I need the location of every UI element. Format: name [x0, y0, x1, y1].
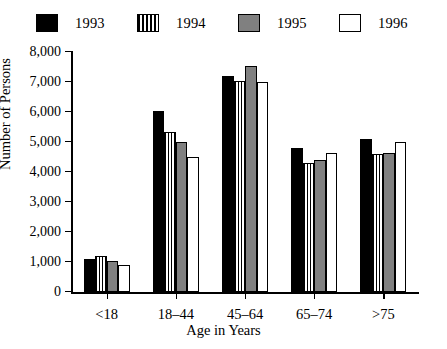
x-tick-label: 65–74 — [296, 306, 332, 323]
x-axis-title: Age in Years — [0, 322, 447, 339]
legend-label-1995: 1995 — [277, 15, 307, 32]
legend-item-1996: 1996 — [339, 10, 408, 36]
y-tick-label: 1,000 — [30, 254, 62, 270]
y-tick-label: 3,000 — [30, 194, 62, 210]
open-white-swatch-icon — [339, 14, 361, 32]
y-tick-mark — [65, 231, 72, 232]
bar — [95, 256, 107, 292]
y-tick-label: 7,000 — [30, 74, 62, 90]
y-tick-label: 5,000 — [30, 134, 62, 150]
y-tick-mark — [65, 201, 72, 202]
bar-group — [153, 52, 199, 292]
bar — [395, 142, 407, 292]
bar — [222, 76, 234, 292]
x-tick-label: <18 — [95, 306, 118, 323]
x-tick-mark — [107, 292, 108, 299]
y-tick-mark — [65, 261, 72, 262]
y-tick-label: 2,000 — [30, 224, 62, 240]
bar — [326, 153, 338, 293]
bar — [314, 160, 326, 292]
y-tick-label: 4,000 — [30, 164, 62, 180]
bar — [360, 139, 372, 292]
legend-label-1996: 1996 — [378, 15, 408, 32]
bar-group — [222, 52, 268, 292]
bar — [84, 259, 96, 292]
y-tick-label: 0 — [54, 284, 61, 300]
x-tick-mark — [176, 292, 177, 299]
bar — [291, 148, 303, 292]
bar-chart: 1993 1994 1995 1996 Number of Persons 01… — [0, 0, 447, 349]
bar — [257, 82, 269, 292]
bar — [153, 111, 165, 293]
y-tick-mark — [65, 141, 72, 142]
solid-gray-swatch-icon — [238, 14, 260, 32]
legend-label-1993: 1993 — [75, 15, 105, 32]
chart-legend: 1993 1994 1995 1996 — [0, 10, 447, 36]
bar — [383, 153, 395, 293]
bar-group — [360, 52, 406, 292]
bar — [118, 265, 130, 292]
x-tick-label: 45–64 — [227, 306, 263, 323]
y-axis-title: Number of Persons — [0, 58, 14, 170]
bar — [245, 66, 257, 293]
vertical-stripe-swatch-icon — [137, 14, 159, 32]
y-tick-mark — [65, 81, 72, 82]
legend-item-1994: 1994 — [137, 10, 206, 36]
bar — [234, 81, 246, 293]
x-tick-mark — [383, 292, 384, 299]
plot-area: 01,0002,0003,0004,0005,0006,0007,0008,00… — [72, 52, 418, 292]
solid-black-swatch-icon — [36, 14, 58, 32]
y-tick-label: 6,000 — [30, 104, 62, 120]
y-tick-mark — [65, 171, 72, 172]
bar — [303, 163, 315, 292]
y-tick-mark — [65, 111, 72, 112]
bar — [164, 132, 176, 293]
bar — [187, 157, 199, 292]
x-tick-mark — [245, 292, 246, 299]
legend-label-1994: 1994 — [176, 15, 206, 32]
legend-item-1993: 1993 — [36, 10, 105, 36]
bar — [107, 261, 119, 293]
bar — [372, 154, 384, 292]
x-tick-label: >75 — [372, 306, 395, 323]
bar-group — [84, 52, 130, 292]
x-tick-label: 18–44 — [158, 306, 194, 323]
bar — [176, 142, 188, 292]
x-tick-mark — [314, 292, 315, 299]
legend-item-1995: 1995 — [238, 10, 307, 36]
y-tick-mark — [65, 291, 72, 292]
y-tick-label: 8,000 — [30, 44, 62, 60]
y-tick-mark — [65, 51, 72, 52]
bar-group — [291, 52, 337, 292]
